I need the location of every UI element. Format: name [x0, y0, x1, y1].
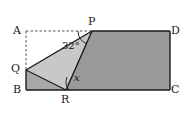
- vertex-label-d: D: [171, 25, 180, 36]
- vertex-label-b: B: [13, 84, 21, 95]
- vertex-label-q: Q: [11, 63, 20, 74]
- angle-label-x: x: [74, 73, 80, 83]
- geometry-figure: A B C D P Q R 32° x: [0, 0, 184, 113]
- vertex-label-p: P: [88, 16, 95, 27]
- angle-label-32-degrees: 32°: [62, 41, 80, 51]
- vertex-label-a: A: [13, 25, 21, 36]
- vertex-label-r: R: [61, 94, 69, 105]
- vertex-label-c: C: [171, 84, 179, 95]
